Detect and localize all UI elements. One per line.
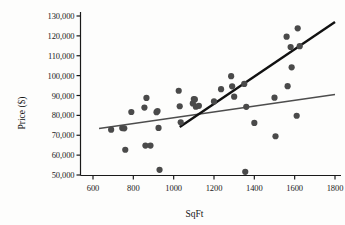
scatter-point — [288, 44, 294, 50]
x-axis-tick-label: 1000 — [165, 183, 182, 193]
y-axis-tick-label: 50,000 — [52, 170, 75, 180]
scatter-point — [108, 127, 114, 133]
scatter-point — [196, 103, 202, 109]
scatter-point — [289, 64, 295, 70]
scatter-point — [251, 120, 257, 126]
scatter-points-group — [108, 25, 303, 175]
y-axis-tick-label: 60,000 — [52, 150, 75, 160]
scatter-point — [228, 73, 234, 79]
scatter-point — [192, 96, 198, 102]
scatter-point — [242, 169, 248, 175]
scatter-point — [285, 83, 291, 89]
y-axis-title: Price ($) — [17, 96, 27, 129]
scatter-point — [229, 83, 235, 89]
x-axis-title: SqFt — [22, 209, 345, 219]
scatter-point — [241, 81, 247, 87]
scatter-point — [284, 34, 290, 40]
scatter-point — [128, 109, 134, 115]
x-axis-tick-label: 1800 — [327, 183, 344, 193]
shallow-fit-line — [99, 95, 335, 129]
x-axis-tick-label: 800 — [127, 183, 139, 193]
y-axis-tick-label: 100,000 — [48, 71, 75, 81]
scatter-point — [271, 95, 277, 101]
scatter-point — [178, 119, 184, 125]
y-axis-tick-label: 120,000 — [48, 31, 75, 41]
scatter-point — [141, 105, 147, 111]
scatter-point — [295, 25, 301, 31]
scatter-point — [147, 142, 153, 148]
scatter-point — [294, 113, 300, 119]
scatter-point — [177, 103, 183, 109]
scatter-point — [143, 95, 149, 101]
scatter-point — [122, 147, 128, 153]
y-axis-tick-label: 110,000 — [48, 51, 75, 61]
x-axis-tick-label: 1400 — [246, 183, 263, 193]
scatter-plot-figure: Price ($) SqFt 50,00060,00070,00080,0009… — [0, 0, 345, 225]
scatter-point — [243, 104, 249, 110]
scatter-point — [218, 86, 224, 92]
steep-fit-line — [180, 22, 335, 127]
x-axis-tick-label: 1200 — [206, 183, 223, 193]
scatter-point — [121, 125, 127, 131]
x-axis-tick-label: 1600 — [286, 183, 303, 193]
scatter-point — [231, 94, 237, 100]
scatter-point — [154, 108, 160, 114]
y-axis-tick-label: 130,000 — [48, 11, 75, 21]
y-axis-tick-label: 80,000 — [52, 110, 75, 120]
scatter-point — [297, 43, 303, 49]
scatter-point — [156, 167, 162, 173]
y-axis-tick-label: 70,000 — [52, 130, 75, 140]
scatter-point — [272, 133, 278, 139]
scatter-point — [155, 125, 161, 131]
y-axis-tick-label: 90,000 — [52, 91, 75, 101]
scatter-point — [176, 88, 182, 94]
scatter-point — [211, 98, 217, 104]
x-axis-tick-label: 600 — [87, 183, 99, 193]
